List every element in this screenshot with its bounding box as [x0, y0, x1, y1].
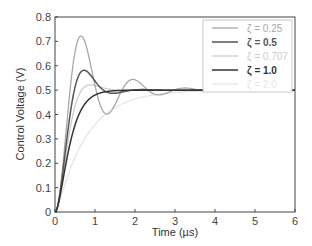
y-tick-label: 0.4 — [36, 109, 51, 121]
y-tick-label: 0.3 — [36, 133, 51, 145]
x-tick-label: 1 — [92, 215, 98, 227]
y-tick-label: 0.2 — [36, 157, 51, 169]
curve-series-2 — [55, 85, 295, 212]
x-tick-label: 2 — [132, 215, 138, 227]
y-tick-label: 0.7 — [36, 35, 51, 47]
x-tick-label: 0 — [52, 215, 58, 227]
y-tick-label: 0.6 — [36, 60, 51, 72]
x-tick-label: 4 — [212, 215, 218, 227]
legend-label: ζ = 0.707 — [247, 51, 288, 63]
legend-label: ζ = 0.25 — [247, 23, 283, 35]
y-tick-label: 0.1 — [36, 182, 51, 194]
x-tick-label: 6 — [292, 215, 298, 227]
legend: ζ = 0.25ζ = 0.5ζ = 0.707ζ = 1.0ζ = 2.0 — [203, 20, 292, 92]
y-tick-label: 0.5 — [36, 84, 51, 96]
legend-label: ζ = 0.5 — [247, 37, 277, 49]
step-response-chart: 00.10.20.30.40.50.60.70.8 0123456 Time (… — [0, 0, 312, 246]
x-tick-label: 5 — [252, 215, 258, 227]
y-axis-label: Control Voltage (V) — [14, 68, 26, 161]
legend-label: ζ = 2.0 — [247, 79, 277, 91]
legend-label: ζ = 1.0 — [247, 65, 277, 77]
curve-series-3 — [55, 90, 295, 212]
y-tick-label: 0.8 — [36, 11, 51, 23]
x-axis-label: Time (µs) — [152, 226, 198, 238]
y-tick-label: 0 — [45, 206, 51, 218]
curve-series-4 — [55, 90, 295, 212]
